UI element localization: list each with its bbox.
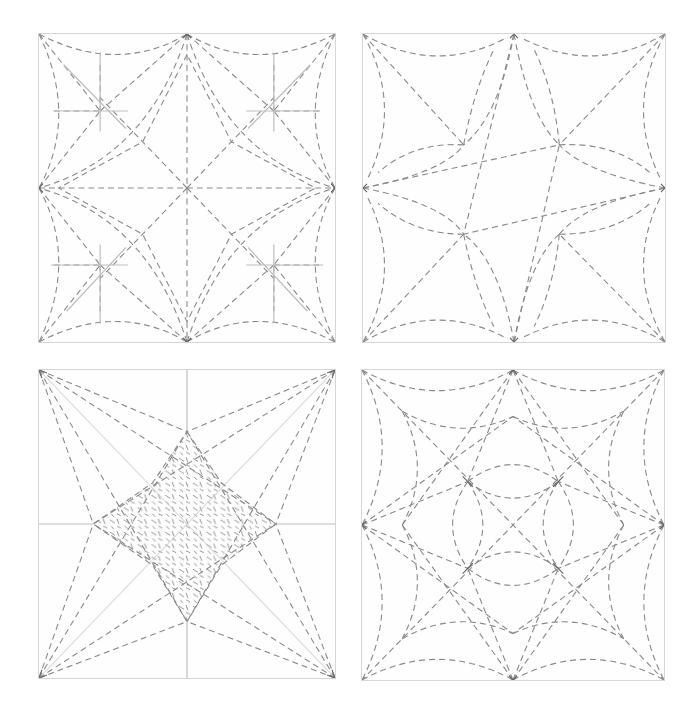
star-cross-pattern-drawing xyxy=(39,34,335,342)
stippled-star-drawing xyxy=(39,370,335,678)
diagram-panel-top-right xyxy=(362,33,666,343)
diagram-panel-top-left xyxy=(38,33,336,343)
diagram-panel-bottom-left xyxy=(38,369,336,679)
spiderweb-pattern-drawing xyxy=(362,370,664,680)
diagram-panel-bottom-right xyxy=(361,369,665,681)
four-point-star-petal-drawing xyxy=(363,34,665,342)
